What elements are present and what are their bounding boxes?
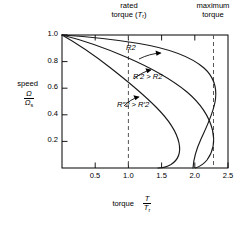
y-tick-label-0.2: 0.2	[38, 136, 58, 145]
curve-label-r2-double-prime: R″2 > R′2	[117, 101, 149, 110]
maximum-torque-line2: torque	[202, 10, 224, 19]
rated-torque-annotation: rated torque (Tr)	[99, 2, 159, 19]
x-tick-label-1.0: 1.0	[116, 172, 140, 181]
x-axis-title-fraction: T Tr	[139, 195, 155, 212]
curve-label-r2: R2	[126, 44, 136, 53]
y-axis-title-word: speed	[6, 80, 38, 89]
y-axis-title-fraction: Ω Ωs	[20, 90, 38, 107]
y-tick-label-0.4: 0.4	[38, 110, 58, 119]
x-tick-label-2.5: 2.5	[216, 172, 240, 181]
torque-speed-plot	[0, 0, 244, 226]
curve-label-r2-prime: R′2 > R2	[133, 73, 163, 82]
chart-figure: rated torque (Tr) maximum torque 1.0 0.8…	[0, 0, 244, 226]
x-axis-fraction: T Tr	[143, 195, 151, 212]
y-axis-denominator: Ωs	[24, 99, 34, 107]
y-tick-label-0.6: 0.6	[38, 83, 58, 92]
x-axis-denominator: Tr	[143, 204, 151, 212]
x-axis-title-word: torque	[96, 200, 134, 209]
x-tick-label-0.5: 0.5	[83, 172, 107, 181]
y-axis-fraction: Ω Ωs	[24, 90, 34, 107]
y-tick-label-1.0: 1.0	[38, 30, 58, 39]
y-tick-label-0.8: 0.8	[38, 57, 58, 66]
maximum-torque-annotation: maximum torque	[183, 2, 243, 19]
x-tick-label-2.0: 2.0	[183, 172, 207, 181]
x-tick-label-1.5: 1.5	[150, 172, 174, 181]
rated-torque-line2: torque (Tr)	[111, 10, 146, 19]
